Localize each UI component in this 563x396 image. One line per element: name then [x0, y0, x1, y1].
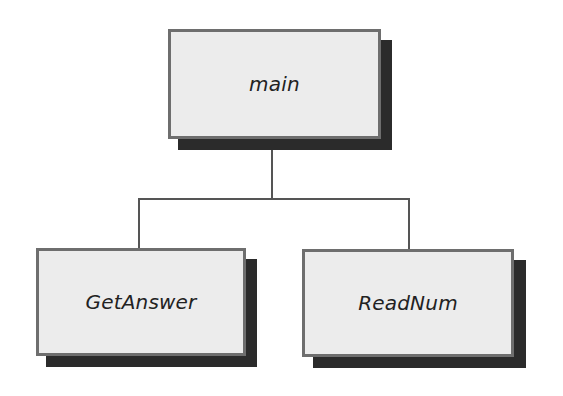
node-readnum: ReadNum — [302, 249, 526, 368]
node-label-getanswer: GetAnswer — [85, 290, 196, 314]
connector-to-readnum — [408, 198, 410, 250]
node-box: main — [168, 29, 381, 139]
node-box: GetAnswer — [36, 248, 246, 356]
connector-to-getanswer — [138, 198, 140, 249]
node-label-main: main — [249, 72, 300, 96]
node-getanswer: GetAnswer — [36, 248, 257, 367]
node-box: ReadNum — [302, 249, 514, 357]
node-label-readnum: ReadNum — [358, 291, 458, 315]
node-main: main — [168, 29, 392, 150]
connector-horizontal-bar — [138, 198, 410, 200]
